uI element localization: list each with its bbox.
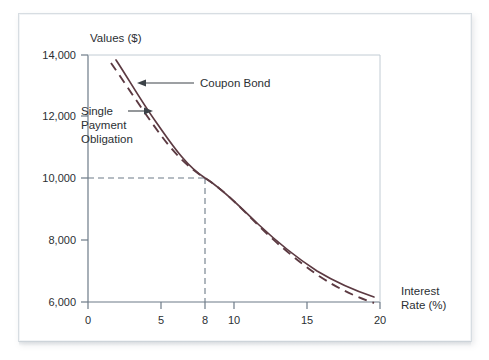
reference-lines bbox=[88, 178, 205, 302]
coupon-bond-arrow-icon bbox=[137, 80, 146, 87]
x-axis-ticks: 0 5 8 10 15 20 bbox=[85, 302, 386, 326]
bond-value-vs-interest-rate-chart: 14,000 12,000 10,000 8,000 6,000 0 5 8 1… bbox=[19, 14, 471, 341]
y-tick-label-12000: 12,000 bbox=[42, 110, 76, 122]
x-tick-label-5: 5 bbox=[158, 314, 164, 326]
x-tick-label-8: 8 bbox=[202, 314, 208, 326]
x-tick-label-15: 15 bbox=[301, 314, 313, 326]
figure-card: 14,000 12,000 10,000 8,000 6,000 0 5 8 1… bbox=[18, 13, 472, 342]
single-payment-obligation-label-line-2: Payment bbox=[81, 119, 127, 131]
y-tick-label-6000: 6,000 bbox=[48, 296, 76, 308]
single-payment-obligation-label-line-1: Single bbox=[81, 105, 113, 117]
coupon-bond-label: Coupon Bond bbox=[200, 77, 270, 89]
x-axis-title-line-1: Interest bbox=[401, 285, 440, 297]
x-tick-label-0: 0 bbox=[85, 314, 91, 326]
y-tick-label-8000: 8,000 bbox=[48, 234, 76, 246]
x-axis-title: Interest Rate (%) bbox=[401, 285, 447, 311]
annotation-coupon-bond: Coupon Bond bbox=[137, 77, 270, 89]
y-axis-title: Values ($) bbox=[90, 32, 142, 44]
x-tick-label-10: 10 bbox=[228, 314, 240, 326]
single-payment-obligation-arrow-icon bbox=[144, 108, 153, 115]
figure-container: 14,000 12,000 10,000 8,000 6,000 0 5 8 1… bbox=[0, 0, 489, 360]
series-single-payment-obligation bbox=[111, 63, 374, 303]
y-tick-label-14000: 14,000 bbox=[42, 49, 76, 61]
y-tick-label-10000: 10,000 bbox=[42, 172, 76, 184]
x-axis-title-line-2: Rate (%) bbox=[401, 299, 447, 311]
annotation-single-payment-obligation: Single Payment Obligation bbox=[81, 105, 153, 145]
single-payment-obligation-label-line-3: Obligation bbox=[81, 133, 133, 145]
x-tick-label-20: 20 bbox=[374, 314, 386, 326]
series-coupon-bond bbox=[116, 60, 374, 297]
y-axis-ticks: 14,000 12,000 10,000 8,000 6,000 bbox=[42, 49, 88, 308]
